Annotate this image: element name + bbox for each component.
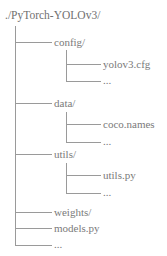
file-coco-names-label: coco.names <box>103 118 155 130</box>
config-more-ellipsis: ... <box>103 74 111 86</box>
root-folder-label: ./PyTorch-YOLOv3/ <box>5 9 100 21</box>
branch-line-yolov3-cfg <box>66 64 101 65</box>
branch-line-models-py <box>15 228 52 229</box>
root-more-ellipsis: ... <box>54 238 62 250</box>
sub-trunk-config <box>66 50 67 81</box>
data-more-ellipsis: ... <box>103 135 111 147</box>
file-utils-py-label: utils.py <box>103 169 136 181</box>
branch-line-utils-py <box>66 175 101 176</box>
branch-line-utils <box>15 154 52 155</box>
folder-utils-label: utils/ <box>54 148 76 160</box>
branch-line-utils-more <box>66 193 101 194</box>
file-yolov3-cfg-label: yolov3.cfg <box>103 58 150 70</box>
branch-line-config <box>15 42 52 43</box>
folder-weights-label: weights/ <box>54 206 91 218</box>
sub-trunk-data <box>66 112 67 142</box>
file-models-py-label: models.py <box>54 222 100 234</box>
branch-line-coco-names <box>66 124 101 125</box>
folder-config-label: config/ <box>54 36 85 48</box>
utils-more-ellipsis: ... <box>103 186 111 198</box>
branch-line-data-more <box>66 142 101 143</box>
sub-trunk-utils <box>66 163 67 193</box>
branch-line-config-more <box>66 81 101 82</box>
folder-data-label: data/ <box>54 97 75 109</box>
directory-tree: ./PyTorch-YOLOv3/ config/ yolov3.cfg ...… <box>0 0 167 256</box>
branch-line-root-more <box>15 245 52 246</box>
branch-line-data <box>15 103 52 104</box>
branch-line-weights <box>15 212 52 213</box>
